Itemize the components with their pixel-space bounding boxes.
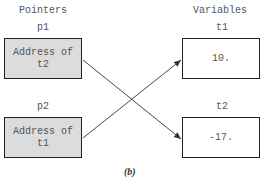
variable-box-t2: -17. — [182, 117, 260, 158]
pointer-label-p1: p1 — [3, 22, 83, 33]
pointer-box-p2: Address of t1 — [4, 117, 82, 158]
variable-value: 10. — [212, 53, 230, 65]
variables-header: Variables — [193, 5, 247, 16]
figure-caption: (b) — [124, 166, 136, 177]
variable-label-t1: t1 — [182, 22, 262, 33]
variable-value: -17. — [209, 132, 233, 144]
pointer-content-line1: Address of — [13, 47, 73, 59]
pointers-header: Pointers — [19, 5, 67, 16]
pointer-content-line2: t1 — [13, 138, 73, 150]
variable-box-t1: 10. — [182, 38, 260, 79]
pointer-label-p2: p2 — [3, 101, 83, 112]
pointer-box-p1: Address of t2 — [4, 38, 82, 79]
pointer-content-line1: Address of — [13, 126, 73, 138]
variable-label-t2: t2 — [182, 101, 262, 112]
pointer-diagram: Pointers Variables p1 Address of t2 p2 A… — [0, 0, 264, 182]
pointer-content-line2: t2 — [13, 59, 73, 71]
